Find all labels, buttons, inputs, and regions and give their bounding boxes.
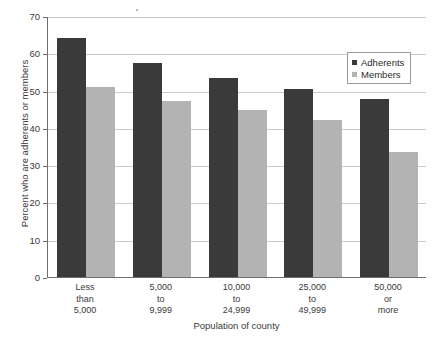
legend-swatch-icon-adherents — [352, 60, 357, 65]
x-axis-tick-label-line: to — [272, 294, 352, 306]
legend-swatch-icon-members — [352, 72, 357, 77]
x-axis-tick-label-line: more — [348, 305, 428, 317]
bar-chart: Percent who are adherents or members 010… — [0, 0, 432, 341]
x-axis-tick-label-line: 25,000 — [272, 282, 352, 294]
x-axis-tick-label-line: or — [348, 294, 428, 306]
y-axis-tick-label: 10 — [14, 236, 40, 246]
y-axis-tick-label: 20 — [14, 198, 40, 208]
legend-label-members: Members — [361, 69, 401, 80]
x-axis-tick-label-line: Less — [45, 282, 125, 294]
x-axis-tick-label-line: to — [197, 294, 277, 306]
bar-group — [284, 17, 342, 277]
x-axis-tick-label-line: 5,000 — [45, 305, 125, 317]
bar-members — [389, 152, 418, 277]
x-axis-tick-label: 25,000to49,999 — [272, 282, 352, 317]
y-axis-tick-label: 70 — [14, 12, 40, 22]
bar-adherents — [209, 78, 238, 277]
bar-adherents — [284, 89, 313, 277]
x-axis-tick-label-line: than — [45, 294, 125, 306]
bar-adherents — [133, 63, 162, 277]
y-axis-tick-label: 0 — [14, 273, 40, 283]
x-axis-tick-labels: Lessthan5,0005,000to9,99910,000to24,9992… — [47, 282, 426, 322]
bar-group — [133, 17, 191, 277]
x-axis-tick-label: 5,000to9,999 — [121, 282, 201, 317]
y-axis-tick-label: 40 — [14, 124, 40, 134]
x-axis-tick-label-line: 49,999 — [272, 305, 352, 317]
bar-group — [57, 17, 115, 277]
y-axis-tick-label: 60 — [14, 49, 40, 59]
y-axis-tick-mark — [43, 278, 47, 279]
y-axis-tick-label: 30 — [14, 161, 40, 171]
x-axis-tick-label: 10,000to24,999 — [197, 282, 277, 317]
bar-adherents — [360, 99, 389, 277]
x-axis-tick-label-line: 9,999 — [121, 305, 201, 317]
x-axis-title: Population of county — [47, 320, 426, 331]
x-axis-tick-label-line: 24,999 — [197, 305, 277, 317]
legend-label-adherents: Adherents — [361, 57, 404, 68]
bar-members — [162, 101, 191, 277]
x-axis-tick-label: 50,000ormore — [348, 282, 428, 317]
y-axis-tick-label: 50 — [14, 87, 40, 97]
bar-members — [313, 120, 342, 277]
x-axis-tick-label-line: 50,000 — [348, 282, 428, 294]
legend: Adherents Members — [347, 52, 411, 84]
legend-item-members: Members — [352, 68, 404, 80]
x-axis-tick-label-line: 10,000 — [197, 282, 277, 294]
bar-members — [86, 87, 115, 277]
bar-group — [209, 17, 267, 277]
legend-item-adherents: Adherents — [352, 56, 404, 68]
x-axis-tick-label: Lessthan5,000 — [45, 282, 125, 317]
x-axis-tick-label-line: to — [121, 294, 201, 306]
bar-members — [238, 110, 267, 277]
x-axis-tick-label-line: 5,000 — [121, 282, 201, 294]
bar-adherents — [57, 38, 86, 277]
